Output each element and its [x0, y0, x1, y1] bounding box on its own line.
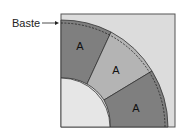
arrow-head-icon	[55, 21, 59, 25]
piece-label-1: A	[76, 40, 84, 52]
baste-label: Baste	[12, 17, 40, 29]
quilt-block-diagram: Baste A A A	[0, 0, 185, 134]
piece-label-3: A	[132, 102, 140, 114]
piece-label-2: A	[112, 64, 120, 76]
